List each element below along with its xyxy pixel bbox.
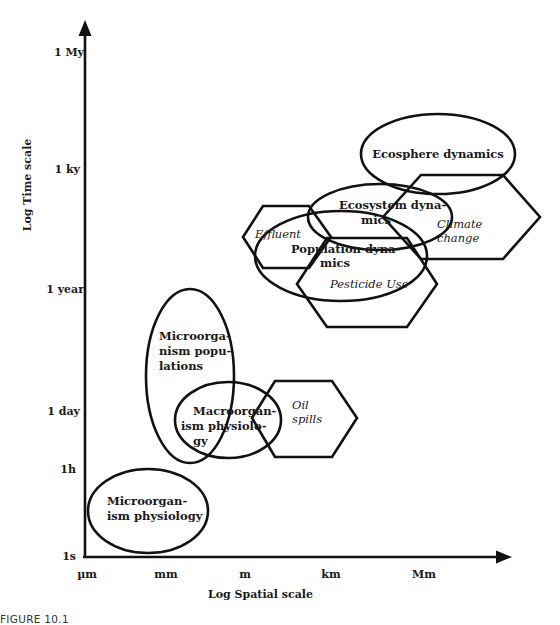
- svg-text:mics: mics: [361, 213, 391, 227]
- y-tick-1s: 1s: [62, 550, 76, 563]
- y-tick-1ky: 1 ky: [55, 163, 81, 176]
- x-tick-mm: mm: [154, 568, 178, 581]
- svg-text:Population dyna-: Population dyna-: [291, 242, 400, 256]
- y-axis-arrow-icon: [79, 20, 92, 36]
- svg-text:Macroorgan-: Macroorgan-: [193, 404, 276, 418]
- microorganism-physiology-label: Microorgan- ism physiology: [107, 494, 203, 523]
- svg-text:nism popu-: nism popu-: [159, 344, 231, 358]
- x-tick-m: m: [239, 568, 251, 581]
- svg-text:Microorga-: Microorga-: [159, 329, 231, 343]
- svg-text:lations: lations: [159, 359, 203, 373]
- effluent-label: Effluent: [254, 227, 301, 241]
- svg-text:gy: gy: [193, 434, 208, 448]
- svg-text:Microorgan-: Microorgan-: [107, 494, 187, 508]
- microorganism-populations-label: Microorga- nism popu- lations: [159, 329, 231, 373]
- svg-text:Ecosphere dynamics: Ecosphere dynamics: [372, 147, 504, 161]
- y-tick-1year: 1 year: [46, 283, 84, 296]
- scale-diagram: Log Time scale 1 My 1 ky 1 year 1 day 1h…: [0, 0, 560, 625]
- svg-text:ism physiolo-: ism physiolo-: [181, 419, 267, 433]
- svg-text:Pesticide Use: Pesticide Use: [329, 277, 409, 291]
- y-tick-1h: 1h: [60, 463, 76, 476]
- pesticide-use-label: Pesticide Use: [329, 277, 409, 291]
- x-tick-km: km: [321, 568, 341, 581]
- figure-caption: FIGURE 10.1: [0, 613, 69, 625]
- svg-text:ism physiology: ism physiology: [107, 509, 203, 523]
- climate-change-label: Climate change: [437, 217, 483, 245]
- svg-text:Ecosystem dyna-: Ecosystem dyna-: [339, 198, 446, 212]
- y-axis-label: Log Time scale: [21, 139, 34, 232]
- svg-text:Oil: Oil: [292, 398, 309, 412]
- macroorganism-physiology-label: Macroorgan- ism physiolo- gy: [181, 404, 276, 448]
- x-axis-arrow-icon: [496, 551, 512, 564]
- svg-text:mics: mics: [320, 256, 350, 270]
- oil-spills-label: Oil spills: [292, 398, 322, 426]
- y-tick-1my: 1 My: [54, 46, 85, 59]
- x-tick-um: µm: [77, 568, 97, 581]
- microorganism-populations-ellipse: [146, 289, 234, 463]
- svg-text:Climate: Climate: [437, 217, 483, 231]
- svg-text:change: change: [437, 231, 479, 245]
- ecosphere-dynamics-label: Ecosphere dynamics: [372, 147, 504, 161]
- x-axis-label: Log Spatial scale: [208, 588, 313, 601]
- svg-text:spills: spills: [292, 412, 322, 426]
- y-tick-1day: 1 day: [47, 405, 80, 418]
- svg-text:Effluent: Effluent: [254, 227, 301, 241]
- x-tick-Mm: Mm: [412, 568, 436, 581]
